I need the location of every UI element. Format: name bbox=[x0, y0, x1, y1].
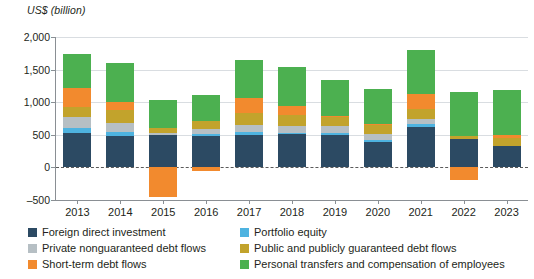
legend-item[interactable]: Private nonguaranteed debt flows bbox=[28, 243, 206, 254]
bar-segment[interactable] bbox=[235, 125, 263, 131]
bar-segment[interactable] bbox=[407, 119, 435, 125]
bar-segment[interactable] bbox=[407, 109, 435, 119]
bar-segment[interactable] bbox=[407, 94, 435, 109]
y-axis-title: US$ (billion) bbox=[27, 4, 86, 16]
legend-swatch-icon bbox=[240, 244, 249, 253]
bar-segment[interactable] bbox=[106, 63, 134, 102]
bar-segment[interactable] bbox=[450, 92, 478, 136]
legend-swatch-icon bbox=[240, 228, 249, 237]
bar-segment[interactable] bbox=[407, 50, 435, 94]
bar-group[interactable] bbox=[407, 37, 435, 200]
x-tick-mark bbox=[120, 200, 121, 204]
bar-segment[interactable] bbox=[364, 124, 392, 125]
bar-segment[interactable] bbox=[192, 129, 220, 134]
bar-segment[interactable] bbox=[106, 123, 134, 131]
bar-segment[interactable] bbox=[278, 126, 306, 133]
bar-segment[interactable] bbox=[321, 126, 349, 133]
bar-segment[interactable] bbox=[63, 117, 91, 128]
bar-segment[interactable] bbox=[493, 90, 521, 135]
y-tick-label: 2,000 bbox=[6, 31, 50, 43]
bar-segment[interactable] bbox=[192, 121, 220, 129]
x-tick-mark bbox=[335, 200, 336, 204]
bar-segment[interactable] bbox=[235, 135, 263, 168]
bar-segment[interactable] bbox=[235, 60, 263, 98]
bar-group[interactable] bbox=[235, 37, 263, 200]
bar-group[interactable] bbox=[63, 37, 91, 200]
bar-group[interactable] bbox=[106, 37, 134, 200]
legend-label: Portfolio equity bbox=[254, 227, 327, 238]
bar-group[interactable] bbox=[278, 37, 306, 200]
bar-segment[interactable] bbox=[364, 142, 392, 168]
bar-segment[interactable] bbox=[321, 116, 349, 117]
y-tick-label: 500 bbox=[6, 129, 50, 141]
bar-segment[interactable] bbox=[192, 136, 220, 167]
bar-group[interactable] bbox=[493, 37, 521, 200]
bar-segment[interactable] bbox=[278, 67, 306, 107]
bar-segment[interactable] bbox=[235, 98, 263, 113]
x-tick-mark bbox=[507, 200, 508, 204]
bar-segment[interactable] bbox=[192, 167, 220, 170]
bar-segment[interactable] bbox=[63, 133, 91, 168]
bar-segment[interactable] bbox=[364, 89, 392, 124]
x-tick-mark bbox=[378, 200, 379, 204]
legend-item[interactable]: Public and publicly guaranteed debt flow… bbox=[240, 243, 456, 254]
bar-group[interactable] bbox=[364, 37, 392, 200]
bar-segment[interactable] bbox=[106, 102, 134, 110]
bar-segment[interactable] bbox=[63, 128, 91, 133]
bar-segment[interactable] bbox=[106, 136, 134, 167]
bar-segment[interactable] bbox=[106, 110, 134, 123]
bar-segment[interactable] bbox=[192, 134, 220, 136]
legend-item[interactable]: Short-term debt flows bbox=[28, 259, 147, 270]
bar-segment[interactable] bbox=[106, 132, 134, 137]
bar-segment[interactable] bbox=[149, 133, 177, 136]
bar-segment[interactable] bbox=[407, 127, 435, 167]
x-tick-label: 2023 bbox=[482, 206, 532, 218]
bar-segment[interactable] bbox=[278, 115, 306, 126]
x-tick-mark bbox=[292, 200, 293, 204]
bar-segment[interactable] bbox=[364, 140, 392, 141]
bar-segment[interactable] bbox=[321, 80, 349, 116]
bar-segment[interactable] bbox=[149, 167, 177, 197]
y-tick-mark bbox=[51, 167, 55, 168]
bar-segment[interactable] bbox=[278, 134, 306, 167]
legend-item[interactable]: Foreign direct investment bbox=[28, 227, 166, 238]
legend-swatch-icon bbox=[28, 244, 37, 253]
bar-segment[interactable] bbox=[493, 138, 521, 145]
bar-segment[interactable] bbox=[149, 128, 177, 133]
legend-item[interactable]: Personal transfers and compensation of e… bbox=[240, 259, 505, 270]
bar-segment[interactable] bbox=[493, 146, 521, 168]
y-axis-ticks: –50005001,0001,5002,000 bbox=[0, 37, 50, 200]
bar-segment[interactable] bbox=[321, 133, 349, 135]
x-tick-mark bbox=[163, 200, 164, 204]
bar-group[interactable] bbox=[321, 37, 349, 200]
bar-group[interactable] bbox=[149, 37, 177, 200]
bar-segment[interactable] bbox=[278, 133, 306, 135]
bar-segment[interactable] bbox=[63, 54, 91, 89]
bar-segment[interactable] bbox=[450, 136, 478, 139]
bar-segment[interactable] bbox=[278, 106, 306, 114]
bar-segment[interactable] bbox=[407, 124, 435, 127]
legend-item[interactable]: Portfolio equity bbox=[240, 227, 327, 238]
bar-segment[interactable] bbox=[235, 132, 263, 135]
bar-segment[interactable] bbox=[149, 100, 177, 128]
bar-group[interactable] bbox=[192, 37, 220, 200]
legend-label: Personal transfers and compensation of e… bbox=[254, 259, 505, 270]
bar-segment[interactable] bbox=[450, 167, 478, 180]
bar-segment[interactable] bbox=[149, 135, 177, 167]
bar-segment[interactable] bbox=[63, 88, 91, 107]
bar-segment[interactable] bbox=[450, 139, 478, 168]
legend-swatch-icon bbox=[28, 260, 37, 269]
legend-swatch-icon bbox=[240, 260, 249, 269]
bar-segment[interactable] bbox=[321, 135, 349, 168]
chart-legend: Foreign direct investmentPortfolio equit… bbox=[28, 227, 528, 277]
bar-segment[interactable] bbox=[493, 135, 521, 138]
bar-segment[interactable] bbox=[192, 95, 220, 121]
bar-group[interactable] bbox=[450, 37, 478, 200]
bar-segment[interactable] bbox=[321, 116, 349, 125]
bar-segment[interactable] bbox=[364, 134, 392, 140]
bar-segment[interactable] bbox=[364, 125, 392, 135]
bar-segment[interactable] bbox=[235, 113, 263, 125]
bar-segment[interactable] bbox=[63, 107, 91, 116]
y-tick-mark bbox=[51, 200, 55, 201]
y-tick-label: 1,000 bbox=[6, 96, 50, 108]
